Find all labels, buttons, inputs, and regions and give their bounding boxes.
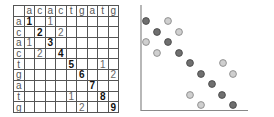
- diagonal-dot: [209, 81, 216, 88]
- diagonal-dot: [230, 102, 237, 109]
- diagonal-dot: [198, 71, 205, 78]
- diagonal-dot: [154, 29, 161, 36]
- offdiagonal-dot: [176, 29, 183, 36]
- offdiagonal-dot: [230, 71, 237, 78]
- dot-plot: [0, 0, 274, 117]
- diagonal-dot: [219, 92, 226, 99]
- diagonal-dot: [187, 60, 194, 67]
- diagonal-dot: [165, 39, 172, 46]
- offdiagonal-dot: [143, 39, 150, 46]
- offdiagonal-dot: [165, 18, 172, 25]
- diagonal-dot: [176, 50, 183, 57]
- diagonal-dot: [143, 18, 150, 25]
- offdiagonal-dot: [220, 60, 227, 67]
- offdiagonal-dot: [198, 102, 205, 109]
- offdiagonal-dot: [187, 92, 194, 99]
- offdiagonal-dot: [154, 50, 161, 57]
